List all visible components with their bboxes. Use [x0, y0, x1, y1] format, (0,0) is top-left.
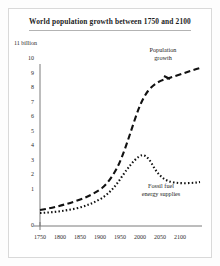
title-block: World population growth between 1750 and…: [14, 17, 206, 31]
y-axis-tick-1: 1: [20, 186, 34, 193]
y-axis-tick-0: 0: [20, 222, 34, 229]
y-axis-tick-4: 4: [20, 142, 34, 149]
y-axis-tick-5: 5: [20, 128, 34, 135]
y-axis-unit-label: 11 billion: [14, 40, 37, 47]
fossil-fuel-annotation-line1: Fossil fuel: [130, 182, 192, 190]
population-label-leader: [164, 76, 170, 79]
y-axis-tick-8: 8: [20, 84, 34, 91]
population-growth-annotation-line2: growth: [136, 54, 190, 62]
fossil-fuel-annotation-line2: energy supplies: [130, 190, 192, 198]
y-axis-tick-3: 3: [20, 157, 34, 164]
plot-area: 11 billion 10 9 8 7 6 5 4 3 2 1 0 1750 1…: [14, 44, 206, 250]
title-divider: [29, 30, 191, 31]
population-growth-annotation-line1: Population: [136, 46, 190, 54]
chart-plot-svg: [14, 44, 206, 250]
population-growth-annotation: Population growth: [136, 46, 190, 61]
chart-title: World population growth between 1750 and…: [14, 17, 206, 27]
y-axis-tick-7: 7: [20, 99, 34, 106]
fossil-fuel-annotation: Fossil fuel energy supplies: [130, 182, 192, 197]
figure-container: World population growth between 1750 and…: [0, 0, 220, 266]
y-axis-tick-2: 2: [20, 171, 34, 178]
x-axis-tick-2100: 2100: [168, 234, 192, 241]
y-axis-tick-6: 6: [20, 113, 34, 120]
y-axis-tick-9: 9: [20, 70, 34, 77]
y-axis-tick-10: 10: [20, 55, 34, 62]
